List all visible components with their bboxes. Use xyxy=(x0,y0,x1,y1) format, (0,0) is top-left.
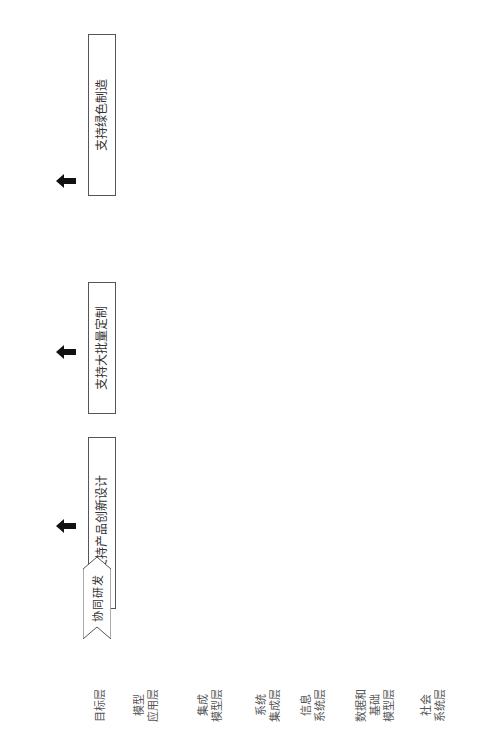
goal-box-mass-customization: 支持大批量定制 xyxy=(88,282,116,414)
layer-label-data-base-model: 数据和 基础 模型层 xyxy=(355,675,397,735)
layer-label-model-app: 模型 应用层 xyxy=(133,675,161,735)
arrow-up-icon xyxy=(56,174,76,188)
arrow-up-icon xyxy=(56,345,76,359)
arrow-up-icon xyxy=(56,519,76,533)
layer-label-goal: 目标层 xyxy=(94,675,108,735)
layer-label-info-system: 信息 系统层 xyxy=(300,675,328,735)
app-chevron-collab-rd: 协同研发 xyxy=(83,557,125,639)
goal-box-green-manufacturing: 支持绿色制造 xyxy=(88,34,116,196)
mbe-architecture-diagram: 目标层 模型 应用层 集成 模型层 系统 集成层 信息 系统层 数据和 基础 模… xyxy=(0,0,492,739)
layer-label-system-integration: 系统 集成层 xyxy=(255,675,283,735)
layer-label-social-system: 社会 系统层 xyxy=(420,675,448,735)
layer-label-integration-model: 集成 模型层 xyxy=(197,675,225,735)
